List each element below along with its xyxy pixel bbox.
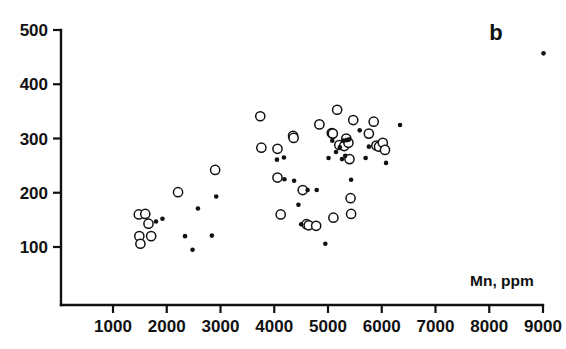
scatter-chart: 100200300400500 100020003000400050006000… [0,0,566,349]
x-tick-label-4000: 4000 [255,317,293,336]
data-point-filled [357,128,362,133]
data-point-filled [363,156,368,161]
data-point-open [315,120,324,129]
data-point-open [141,209,150,218]
data-point-open [328,129,337,138]
data-point-filled [299,222,304,227]
y-tick-label-300: 300 [20,130,48,149]
x-tick-label-8000: 8000 [470,317,508,336]
data-point-filled [343,154,348,159]
data-point-filled [384,161,389,166]
y-tick-label-500: 500 [20,21,48,40]
data-point-filled [214,194,219,199]
x-tick-label-9000: 9000 [524,317,562,336]
data-point-filled [334,150,339,155]
series-open-circles [134,105,389,248]
x-tick-label-3000: 3000 [202,317,240,336]
y-tick-label-200: 200 [20,184,48,203]
x-tick-label-1000: 1000 [94,317,132,336]
data-point-filled [338,145,343,150]
data-point-layer [134,51,546,252]
data-point-filled [367,144,372,149]
data-point-filled [398,123,403,128]
data-point-open [276,210,285,219]
data-point-open [273,144,282,153]
data-point-filled [349,177,354,182]
data-point-open [173,188,182,197]
data-point-filled [282,177,287,182]
data-point-filled [541,51,546,56]
data-point-filled [183,234,188,239]
data-point-filled [292,179,297,184]
data-point-open [256,112,265,121]
x-axis: 100020003000400050006000700080009000 [61,305,562,336]
data-point-filled [305,188,310,193]
y-tick-label-400: 400 [20,75,48,94]
data-point-open [333,105,342,114]
data-point-open [312,221,321,230]
data-point-filled [282,155,287,160]
data-point-filled [330,138,335,143]
y-tick-label-100: 100 [20,238,48,257]
data-point-filled [296,202,301,207]
x-axis-title: Mn, ppm [470,272,534,289]
data-point-filled [275,157,280,162]
data-point-open [136,239,145,248]
panel-label: b [489,20,502,45]
y-axis-tick-labels: 100200300400500 [20,21,48,257]
x-tick-label-6000: 6000 [363,317,401,336]
data-point-filled [196,206,201,211]
data-point-filled [154,219,159,224]
data-point-filled [347,137,352,142]
data-point-filled [190,247,195,252]
series-filled-dots [154,51,546,252]
data-point-open [380,145,389,154]
y-axis: 100200300400500 [20,21,61,305]
data-point-open [144,219,153,228]
data-point-filled [323,241,328,246]
x-tick-label-5000: 5000 [309,317,347,336]
data-point-open [257,143,266,152]
x-tick-label-2000: 2000 [148,317,186,336]
data-point-open [273,173,282,182]
data-point-open [369,117,378,126]
scatter-plot-panel: 100200300400500 100020003000400050006000… [0,0,566,349]
data-point-open [147,232,156,241]
data-point-filled [314,188,319,193]
x-tick-label-7000: 7000 [417,317,455,336]
data-point-open [349,115,358,124]
data-point-filled [160,216,165,221]
data-point-open [347,209,356,218]
data-point-filled [340,157,345,162]
data-point-open [346,194,355,203]
data-point-open [289,133,298,142]
data-point-filled [326,156,331,161]
data-point-open [211,165,220,174]
x-axis-tick-labels: 100020003000400050006000700080009000 [94,317,562,336]
data-point-open [329,213,338,222]
data-point-open [364,129,373,138]
data-point-filled [210,233,215,238]
